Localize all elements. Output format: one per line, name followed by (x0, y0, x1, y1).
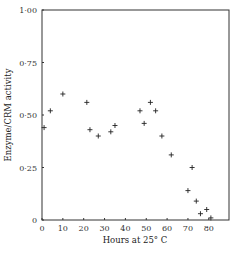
plus-marker (84, 100, 89, 105)
plus-marker (87, 127, 92, 132)
x-axis-title: Hours at 25° C (103, 235, 168, 245)
plot-frame (42, 10, 229, 220)
x-tick-label: 80 (204, 224, 214, 233)
x-tick-label: 10 (58, 224, 68, 233)
plus-marker (198, 211, 203, 216)
y-tick-label: 0·25 (19, 164, 37, 173)
y-tick-label: 0 (32, 216, 37, 225)
x-tick-label: 60 (162, 224, 172, 233)
x-tick-label: 70 (183, 224, 193, 233)
y-axis-title: Enzyme/CRM activity (3, 68, 13, 161)
y-tick-label: 0·50 (19, 111, 37, 120)
plus-marker (194, 199, 199, 204)
plus-marker (112, 123, 117, 128)
y-axis-ticks: 00·250·500·751·00 (19, 6, 44, 225)
x-tick-label: 40 (120, 224, 130, 233)
plus-marker (153, 108, 158, 113)
plus-marker (148, 100, 153, 105)
x-tick-label: 50 (141, 224, 151, 233)
x-tick-label: 0 (39, 224, 44, 233)
plus-marker (108, 129, 113, 134)
plus-marker (137, 108, 142, 113)
plus-marker (185, 188, 190, 193)
plus-marker (48, 108, 53, 113)
plus-marker (159, 134, 164, 139)
plus-marker (169, 152, 174, 157)
x-tick-label: 30 (99, 224, 109, 233)
scatter-chart: 01020304050607080 00·250·500·751·00 Hour… (0, 0, 237, 253)
plus-marker (204, 207, 209, 212)
plus-marker (60, 92, 65, 97)
data-points (42, 92, 214, 221)
plus-marker (96, 134, 101, 139)
y-tick-label: 0·75 (19, 59, 37, 68)
plus-marker (142, 121, 147, 126)
y-tick-label: 1·00 (19, 6, 37, 15)
plus-marker (190, 165, 195, 170)
x-tick-label: 20 (79, 224, 89, 233)
